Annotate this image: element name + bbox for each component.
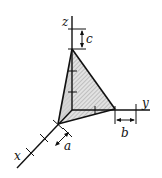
arrow-right-icon — [130, 118, 135, 122]
y-axis-label: y — [141, 96, 149, 110]
arrow-down-icon — [80, 43, 84, 48]
dimension-b-label: b — [121, 126, 129, 140]
z-axis-label: z — [61, 15, 69, 29]
dimension-a-label: a — [64, 139, 71, 153]
arrow-left-icon — [116, 118, 121, 122]
tetrahedron-diagram: z y x c b a — [0, 0, 162, 178]
x-axis-label: x — [14, 149, 21, 163]
dimension-c-label: c — [86, 32, 93, 46]
x-tick — [40, 134, 48, 142]
arrow-up-icon — [80, 30, 84, 35]
